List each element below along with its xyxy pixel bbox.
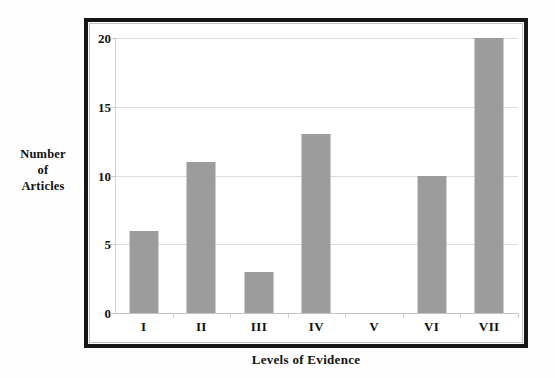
x-tick-mark-VII: [518, 313, 519, 318]
y-axis-title-line-3: Articles: [6, 178, 80, 194]
chart-figure: Number of Articles 05101520 IIIIIIIVVVIV…: [0, 0, 555, 378]
x-tick-mark-III: [288, 313, 289, 318]
y-tick-mark-0: [110, 313, 116, 314]
bar-slot-VII: [460, 38, 518, 313]
x-tick-label-I: I: [115, 318, 173, 336]
y-tick-mark-15: [110, 107, 116, 108]
y-tick-mark-10: [110, 176, 116, 177]
x-tick-label-IV: IV: [288, 318, 346, 336]
bar-slot-II: [173, 38, 231, 313]
gridline-0: [115, 313, 518, 314]
y-axis-title-line-1: Number: [6, 146, 80, 162]
y-tick-label-5: 5: [85, 238, 111, 251]
bar-VII[interactable]: [475, 38, 504, 313]
y-tick-label-15: 15: [85, 101, 111, 114]
bar-slot-VI: [403, 38, 461, 313]
y-axis-title: Number of Articles: [6, 146, 80, 194]
x-axis-title: Levels of Evidence: [84, 352, 528, 368]
y-axis-tick-labels: 05101520: [84, 38, 111, 313]
bar-IV[interactable]: [302, 134, 331, 313]
y-tick-label-0: 0: [85, 307, 111, 320]
bar-II[interactable]: [187, 162, 216, 313]
bar-slot-IV: [288, 38, 346, 313]
x-tick-label-VI: VI: [403, 318, 461, 336]
y-tick-label-20: 20: [85, 32, 111, 45]
y-tick-mark-20: [110, 38, 116, 39]
x-tick-label-V: V: [345, 318, 403, 336]
x-tick-label-VII: VII: [460, 318, 518, 336]
y-tick-label-10: 10: [85, 170, 111, 183]
x-tick-mark-IV: [345, 313, 346, 318]
y-tick-mark-5: [110, 244, 116, 245]
bar-slot-V: [345, 38, 403, 313]
bar-VI[interactable]: [417, 176, 446, 314]
x-axis-tick-labels: IIIIIIIVVVIVII: [115, 318, 518, 342]
bar-I[interactable]: [129, 231, 158, 314]
x-tick-label-II: II: [173, 318, 231, 336]
x-tick-mark-I: [173, 313, 174, 318]
x-tick-label-III: III: [230, 318, 288, 336]
bar-slot-III: [230, 38, 288, 313]
y-axis-title-line-2: of: [6, 162, 80, 178]
x-tick-mark-II: [230, 313, 231, 318]
plot-area: [115, 38, 518, 313]
bar-III[interactable]: [244, 272, 273, 313]
x-tick-mark-VI: [460, 313, 461, 318]
x-tick-mark-V: [403, 313, 404, 318]
bar-slot-I: [115, 38, 173, 313]
